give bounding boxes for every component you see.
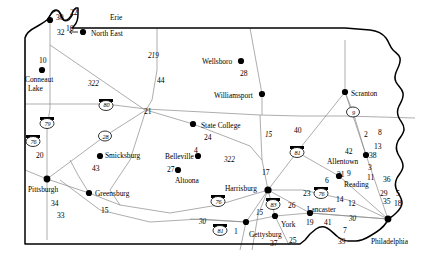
shield-label-76-2: 76 <box>29 139 38 145</box>
site-number-4: 4 <box>194 147 198 155</box>
site-number-2: 2 <box>364 131 368 139</box>
site-number-40: 40 <box>294 127 302 135</box>
site-number-13: 13 <box>374 143 382 151</box>
route-number-322-2: 322 <box>224 157 235 164</box>
site-number-9: 9 <box>347 170 351 178</box>
site-number-39: 39 <box>338 238 346 246</box>
city-label-wellsboro: Wellsboro <box>202 58 232 65</box>
route-number-15-3: 15 <box>265 132 272 139</box>
city-label-york: York <box>281 221 295 228</box>
route-number-30-5: 30 <box>199 219 206 226</box>
site-number-18: 18 <box>394 200 402 208</box>
site-number-8: 8 <box>378 129 382 137</box>
site-number-12: 12 <box>348 200 356 208</box>
site-number-3: 3 <box>368 164 372 172</box>
shield-label-76-7: 76 <box>214 199 223 205</box>
site-number-10: 10 <box>39 57 47 65</box>
city-label-north-east: North East <box>91 30 123 37</box>
city-label-pittsburgh: Pittsburgh <box>28 186 58 193</box>
city-label-harrisburg: Harrisburg <box>225 185 257 192</box>
city-label-greensburg: Greensburg <box>95 190 129 197</box>
site-number-11: 11 <box>367 174 374 182</box>
site-number-31: 31 <box>337 171 345 179</box>
site-number-23: 23 <box>303 190 311 198</box>
city-label-gettysburg: Gettysburg <box>249 231 282 238</box>
site-number-17: 17 <box>262 169 270 177</box>
site-number-35: 35 <box>383 198 391 206</box>
city-label-williamsport: Williamsport <box>214 92 253 99</box>
city-label-state-college: State College <box>201 122 241 129</box>
city-label-erie: Erie <box>110 14 122 21</box>
shield-label-81-5: 81 <box>293 150 302 156</box>
site-number-14: 14 <box>336 196 344 204</box>
route-number-219-0: 219 <box>148 53 159 60</box>
site-number-30: 30 <box>56 14 64 22</box>
site-number-28: 28 <box>240 70 248 78</box>
site-number-6: 6 <box>325 177 329 185</box>
site-number-44: 44 <box>157 77 165 85</box>
city-label-smicksburg: Smicksburg <box>105 152 140 159</box>
site-number-24: 24 <box>204 134 212 142</box>
site-number-37: 37 <box>270 240 278 248</box>
site-number-19: 19 <box>306 219 314 227</box>
site-number-15: 15 <box>101 207 109 215</box>
site-number-5: 5 <box>396 190 400 198</box>
shield-label-76-6: 76 <box>317 191 326 197</box>
site-number-41: 41 <box>324 219 332 227</box>
site-number-22: 22 <box>70 9 78 17</box>
site-number-26: 26 <box>288 202 296 210</box>
route-number-15-4: 15 <box>256 210 263 217</box>
city-label-scranton: Scranton <box>351 90 377 97</box>
site-number-42: 42 <box>345 148 353 156</box>
site-number-36: 36 <box>383 176 391 184</box>
route-number-322-1: 322 <box>88 81 99 88</box>
city-label-reading: Reading <box>344 181 369 188</box>
shield-label-83-8: 83 <box>269 202 278 208</box>
city-label-belleville: Belleville <box>165 153 194 160</box>
shield-label-80-0: 80 <box>102 102 111 108</box>
site-number-1: 1 <box>234 228 238 236</box>
site-number-25: 25 <box>289 237 297 245</box>
city-label-lake: Lake <box>28 85 43 92</box>
site-number-7: 7 <box>343 227 347 235</box>
site-number-21: 21 <box>144 108 152 116</box>
city-label-allentown: Allentown <box>327 158 358 165</box>
site-number-32: 32 <box>57 29 65 37</box>
shield-label-81-9: 81 <box>216 228 225 234</box>
site-number-33: 33 <box>57 212 65 220</box>
shield-label-28-3: 28 <box>101 134 110 140</box>
site-number-20: 20 <box>36 152 44 160</box>
shield-label-79-1: 79 <box>43 121 52 127</box>
site-number-27: 27 <box>167 166 175 174</box>
pennsylvania-map: ErieNorth EastConneautLakeWellsboroWilli… <box>0 0 431 257</box>
site-number-38: 38 <box>369 152 377 160</box>
site-number-34: 34 <box>51 200 59 208</box>
city-label-lancaster: Lancaster <box>307 206 336 213</box>
city-label-philadelphia: Philadelphia <box>371 238 408 245</box>
road-network <box>25 20 415 250</box>
site-number-16: 16 <box>66 25 74 33</box>
route-number-30-6: 30 <box>349 216 356 223</box>
shield-label-9-4: 9 <box>349 110 358 116</box>
city-label-conneaut: Conneaut <box>25 76 53 83</box>
city-label-altoona: Altoona <box>175 177 199 184</box>
site-number-43: 43 <box>92 165 100 173</box>
